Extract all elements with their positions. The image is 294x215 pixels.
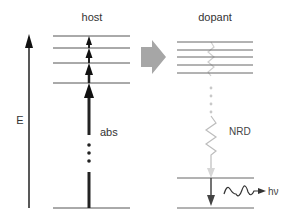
photon-wave-icon: [224, 186, 260, 196]
emission-arrowhead: [207, 195, 215, 206]
absorption-arrowhead: [84, 83, 94, 98]
dopant-title: dopant: [198, 11, 232, 23]
energy-axis: [25, 34, 33, 208]
step-arrowhead: [86, 36, 92, 45]
absorption-arrows: [84, 36, 94, 208]
energy-transfer-diagram: host dopant E abs: [0, 0, 294, 215]
nrd-dot: [210, 111, 213, 114]
ellipsis-dot: [87, 151, 91, 155]
nrd-upper-zigzag: [208, 42, 214, 76]
step-arrowhead: [86, 48, 93, 58]
energy-axis-arrowhead: [25, 34, 33, 48]
nrd-label: NRD: [229, 126, 251, 137]
dopant-levels: [177, 42, 254, 208]
host-levels: [53, 36, 130, 208]
host-title: host: [82, 11, 103, 23]
nrd-zigzag: [206, 116, 216, 162]
nrd-dot: [210, 95, 213, 98]
nonradiative-decay: [206, 42, 216, 178]
nrd-dot: [210, 87, 213, 90]
nrd-dot: [210, 103, 213, 106]
radiative-emission: [207, 178, 266, 206]
energy-axis-label: E: [16, 114, 23, 126]
absorption-label: abs: [100, 126, 118, 138]
ellipsis-dot: [87, 159, 91, 163]
photon-arrowhead: [258, 188, 266, 194]
energy-transfer-arrow: [141, 40, 166, 74]
nrd-arrowhead: [207, 168, 215, 178]
step-arrowhead: [85, 63, 93, 75]
photon-label: hν: [268, 186, 279, 197]
ellipsis-dot: [87, 143, 91, 147]
